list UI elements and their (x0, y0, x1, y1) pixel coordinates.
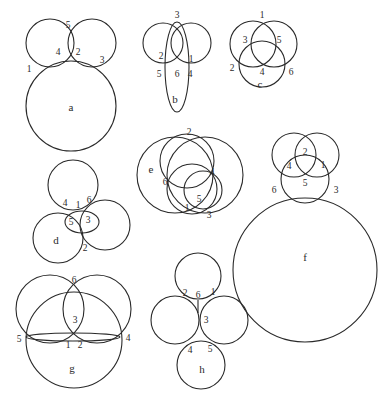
point-label: 4 (210, 167, 215, 177)
point-label: 1 (189, 54, 194, 64)
figure-g: g 6 3 5 1 2 4 (16, 275, 131, 388)
figure-g-title: g (69, 362, 75, 374)
figure-h-title: h (199, 363, 205, 375)
circle-h-left (151, 296, 199, 344)
point-label: 4 (56, 47, 61, 57)
point-label: 5 (157, 69, 162, 79)
point-label: 3 (86, 215, 91, 225)
point-label: 1 (211, 287, 216, 297)
point-label: 1 (66, 340, 71, 350)
point-label: 3 (175, 10, 180, 20)
point-label: 5 (303, 178, 308, 188)
circle-e-left (137, 137, 213, 213)
point-label: 4 (188, 345, 193, 355)
point-label: 5 (17, 334, 22, 344)
point-label: 4 (63, 198, 68, 208)
point-label: 2 (76, 47, 81, 57)
point-label: 3 (243, 35, 248, 45)
circle-e-inner (184, 171, 222, 209)
point-label: 6 (163, 177, 168, 187)
point-label: 4 (126, 333, 131, 343)
point-label: 1 (321, 160, 326, 170)
circle-a-right (68, 19, 116, 67)
circle-f-large (233, 198, 377, 342)
point-label: 2 (159, 51, 164, 61)
point-label: 4 (260, 67, 265, 77)
point-label: 6 (272, 185, 277, 195)
circle-d-right (80, 200, 130, 250)
point-label: 1 (185, 203, 190, 213)
circle-intersection-diagram: a 1 4 5 2 3 b 3 2 1 5 6 4 c 1 3 5 2 4 6 (0, 0, 388, 404)
point-label: 3 (334, 185, 339, 195)
figure-b-title: b (172, 93, 178, 105)
point-label: 1 (260, 10, 265, 20)
figure-d-title: d (53, 234, 59, 246)
circle-e-right (167, 137, 243, 213)
point-label: 2 (230, 63, 235, 73)
point-label: 2 (83, 243, 88, 253)
point-label: 6 (175, 69, 180, 79)
figure-b: b 3 2 1 5 6 4 (143, 10, 211, 112)
figure-c: c 1 3 5 2 4 6 (230, 10, 297, 90)
figure-f-title: f (303, 251, 307, 263)
point-label: 2 (78, 340, 83, 350)
figure-a: a 1 4 5 2 3 (26, 19, 116, 151)
figure-a-title: a (69, 101, 74, 113)
point-label: 5 (66, 20, 71, 30)
point-label: 6 (72, 275, 77, 285)
point-label: 3 (73, 315, 78, 325)
point-label: 5 (69, 217, 74, 227)
point-label: 6 (87, 195, 92, 205)
point-label: 3 (100, 55, 105, 65)
point-label: 3 (204, 315, 209, 325)
point-label: 4 (188, 69, 193, 79)
point-label: 2 (187, 127, 192, 137)
point-label: 5 (277, 35, 282, 45)
figure-f: f 2 4 1 5 6 3 (233, 133, 377, 342)
figure-e: e 2 6 4 5 1 3 (137, 127, 243, 220)
circle-c-left (230, 21, 276, 67)
point-label: 2 (303, 147, 308, 157)
point-label: 3 (207, 210, 212, 220)
figure-e-title: e (149, 163, 154, 175)
point-label: 4 (287, 161, 292, 171)
point-label: 6 (196, 290, 201, 300)
point-label: 5 (197, 194, 202, 204)
point-label: 5 (208, 344, 213, 354)
point-label: 6 (289, 67, 294, 77)
point-label: 1 (27, 64, 32, 74)
figure-c-title: c (258, 78, 263, 90)
point-label: 2 (183, 288, 188, 298)
figure-d: d 4 1 6 5 3 2 (33, 160, 130, 263)
point-label: 1 (76, 200, 81, 210)
